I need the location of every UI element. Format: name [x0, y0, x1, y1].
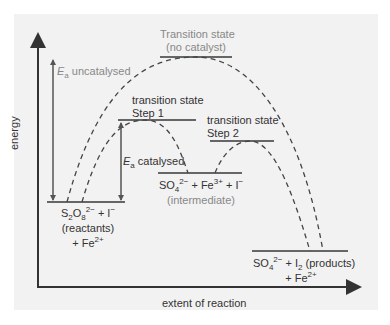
ea-catalysed-label: Ea catalysed	[123, 155, 184, 168]
intermediate-label: SO42− + Fe3+ + I− (intermediate)	[156, 178, 246, 208]
products-label: SO42− + I2 (products) + Fe2+	[253, 256, 349, 286]
ts-uncatalysed-label: Transition state (no catalyst)	[160, 28, 232, 54]
ts-step1-label: transition state Step 1	[132, 94, 204, 120]
x-axis-label: extent of reaction	[162, 297, 246, 310]
reactants-label: S2O82− + I− (reactants) + Fe2+	[50, 206, 126, 251]
y-axis-label: energy	[8, 90, 21, 150]
ea-uncatalysed-label: Ea uncatalysed	[57, 65, 131, 78]
ts-step2-label: transition state Step 2	[207, 114, 279, 140]
